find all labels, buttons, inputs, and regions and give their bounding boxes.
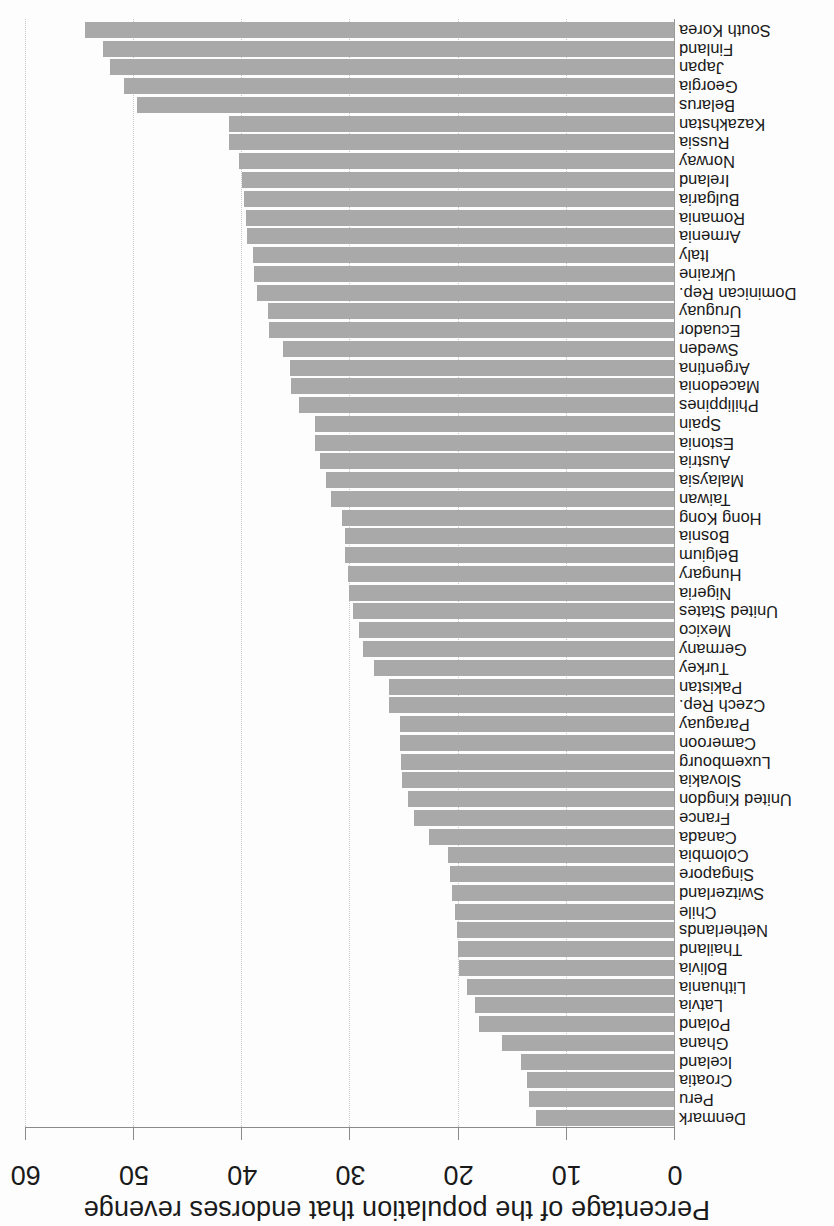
category-label: Paraguay bbox=[679, 715, 750, 734]
bar bbox=[229, 134, 674, 150]
category-label: Italy bbox=[679, 246, 709, 265]
category-label: Bulgaria bbox=[679, 190, 740, 209]
category-label: Latvia bbox=[679, 996, 723, 1015]
bar bbox=[458, 941, 674, 957]
bar-row: Spain bbox=[0, 414, 834, 433]
category-label: Ghana bbox=[679, 1034, 729, 1053]
bar-row: Bosnia bbox=[0, 527, 834, 546]
x-tick-mark bbox=[25, 1128, 26, 1140]
bar bbox=[320, 453, 674, 469]
bar-row: Dominican Rep. bbox=[0, 283, 834, 302]
category-label: Hungary bbox=[679, 565, 741, 584]
bar bbox=[400, 716, 674, 732]
category-label: Turkey bbox=[679, 659, 729, 678]
bar bbox=[253, 247, 674, 263]
category-label: Pakistan bbox=[679, 678, 742, 697]
category-label: Switzerland bbox=[679, 884, 764, 903]
category-label: Poland bbox=[679, 1015, 730, 1034]
bar-row: Hong Kong bbox=[0, 508, 834, 527]
x-tick-mark bbox=[458, 1128, 459, 1140]
bar-row: Sweden bbox=[0, 339, 834, 358]
category-label: Singapore bbox=[679, 865, 754, 884]
bar-row: Singapore bbox=[0, 864, 834, 883]
x-tick-label: 20 bbox=[429, 1159, 489, 1190]
category-label: Ecuador bbox=[679, 321, 740, 340]
category-label: Hong Kong bbox=[679, 509, 762, 528]
x-tick-label: 60 bbox=[0, 1159, 56, 1190]
bar-row: United Kingdon bbox=[0, 789, 834, 808]
bar-row: Georgia bbox=[0, 76, 834, 95]
bar bbox=[269, 322, 674, 338]
category-label: Luxembourg bbox=[679, 753, 771, 772]
bar-row: Poland bbox=[0, 1014, 834, 1033]
bar bbox=[239, 153, 674, 169]
bar bbox=[268, 303, 674, 319]
category-label: Lithuania bbox=[679, 978, 746, 997]
bar bbox=[359, 622, 674, 638]
category-label: Germany bbox=[679, 640, 747, 659]
bar-row: Norway bbox=[0, 152, 834, 171]
bar bbox=[85, 22, 674, 38]
category-label: Malaysia bbox=[679, 471, 744, 490]
bar bbox=[326, 472, 674, 488]
bar bbox=[502, 1035, 674, 1051]
category-label: Estonia bbox=[679, 434, 734, 453]
bar bbox=[353, 603, 674, 619]
bar bbox=[429, 829, 674, 845]
bar-row: Lithuania bbox=[0, 977, 834, 996]
bar bbox=[401, 754, 674, 770]
bar-row: Pakistan bbox=[0, 677, 834, 696]
bar-row: Czech Rep. bbox=[0, 696, 834, 715]
bar-row: Philippines bbox=[0, 395, 834, 414]
bar bbox=[315, 435, 674, 451]
bar bbox=[247, 228, 674, 244]
bar bbox=[402, 772, 674, 788]
category-label: Kazakhstan bbox=[679, 115, 765, 134]
category-label: Macedonia bbox=[679, 377, 760, 396]
category-label: South Korea bbox=[679, 21, 771, 40]
category-label: Slovakia bbox=[679, 771, 741, 790]
bar bbox=[467, 979, 674, 995]
bar-row: Cameroon bbox=[0, 733, 834, 752]
category-label: Cameroon bbox=[679, 734, 756, 753]
bar-row: Ecuador bbox=[0, 320, 834, 339]
category-label: Netherlands bbox=[679, 921, 768, 940]
bar bbox=[455, 904, 674, 920]
bar-row: Switzerland bbox=[0, 883, 834, 902]
category-label: Philippines bbox=[679, 396, 759, 415]
bar bbox=[536, 1110, 674, 1126]
bar bbox=[345, 528, 674, 544]
bar-row: Ukraine bbox=[0, 264, 834, 283]
bar-row: Hungary bbox=[0, 564, 834, 583]
bar-row: Paraguay bbox=[0, 714, 834, 733]
category-label: Czech Rep. bbox=[679, 696, 765, 715]
bar bbox=[342, 510, 674, 526]
bar bbox=[529, 1091, 674, 1107]
bar-row: Bolivia bbox=[0, 958, 834, 977]
x-axis-line bbox=[25, 1127, 675, 1128]
bar bbox=[457, 922, 674, 938]
bar bbox=[521, 1054, 674, 1070]
bar bbox=[374, 660, 674, 676]
bar-row: Canada bbox=[0, 827, 834, 846]
bar bbox=[257, 285, 674, 301]
bar bbox=[299, 397, 674, 413]
bar bbox=[400, 735, 674, 751]
bar-row: Belarus bbox=[0, 95, 834, 114]
bar-row: Taiwan bbox=[0, 489, 834, 508]
category-label: Croatia bbox=[679, 1071, 732, 1090]
bar bbox=[242, 172, 674, 188]
bar-row: Russia bbox=[0, 133, 834, 152]
bar bbox=[124, 78, 674, 94]
category-label: Canada bbox=[679, 828, 737, 847]
bar-row: Argentina bbox=[0, 358, 834, 377]
x-tick-label: 40 bbox=[212, 1159, 272, 1190]
category-label: Belgium bbox=[679, 546, 739, 565]
bar-row: Mexico bbox=[0, 621, 834, 640]
bar-row: Romania bbox=[0, 208, 834, 227]
bar-row: Slovakia bbox=[0, 771, 834, 790]
category-label: Bolivia bbox=[679, 959, 728, 978]
category-label: Dominican Rep. bbox=[679, 284, 796, 303]
bar-row: Chile bbox=[0, 902, 834, 921]
category-label: Armenia bbox=[679, 227, 740, 246]
